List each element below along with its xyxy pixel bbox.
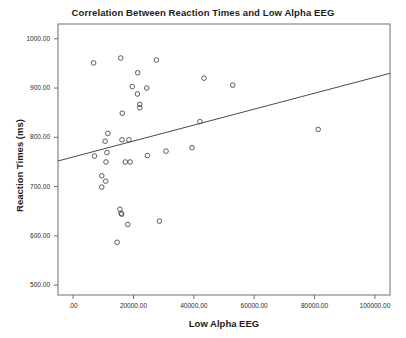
data-point [115,240,120,245]
data-point [135,70,140,75]
data-point [137,105,142,110]
data-point [145,153,150,158]
x-tick-label: 80000.00 [285,302,345,309]
data-point [118,56,123,61]
x-tick-label: 20000.00 [103,302,163,309]
data-point [106,131,111,136]
data-point [91,61,96,66]
regression-line [58,73,390,161]
x-tick-label: 60000.00 [224,302,284,309]
data-point [120,137,125,142]
y-tick-label: 900.00 [10,84,50,91]
axis-frame [58,24,390,295]
plot-area [0,0,406,338]
x-tick-label: 40000.00 [164,302,224,309]
y-tick-label: 500.00 [10,281,50,288]
data-point [157,219,162,224]
plot-frame [58,24,390,295]
y-tick-marks [54,39,58,285]
data-point [103,139,108,144]
data-point [130,84,135,89]
data-points-group [91,56,320,245]
data-point [123,160,128,165]
y-tick-label: 1000.00 [10,35,50,42]
data-point [128,160,133,165]
data-point [99,185,104,190]
data-point [104,160,109,165]
data-point [120,111,125,116]
y-tick-label: 700.00 [10,183,50,190]
data-point [316,127,321,132]
scatter-chart: Correlation Between Reaction Times and L… [0,0,406,338]
x-tick-marks [73,295,375,299]
data-point [190,145,195,150]
regression-line-group [58,73,390,161]
data-point [154,58,159,63]
data-point [125,222,130,227]
data-point [164,149,169,154]
y-tick-label: 600.00 [10,232,50,239]
y-tick-label: 800.00 [10,133,50,140]
data-point [92,154,97,159]
data-point [127,137,132,142]
data-point [103,179,108,184]
data-point [202,76,207,81]
data-point [144,86,149,91]
x-tick-label: .00 [43,302,103,309]
data-point [135,92,140,97]
data-point [230,83,235,88]
data-point [105,150,110,155]
x-tick-label: 100000.00 [345,302,405,309]
data-point [99,173,104,178]
